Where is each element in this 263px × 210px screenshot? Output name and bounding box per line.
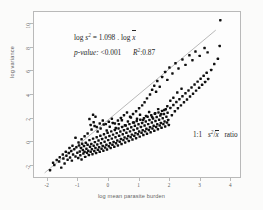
x-bar-symbol: x	[132, 31, 135, 44]
overbar	[132, 30, 135, 31]
slope-value: 1.098	[99, 33, 116, 42]
y-tick-label: 6	[25, 70, 31, 84]
equation-line: log s2 = 1.098 . log x	[74, 29, 155, 44]
x-tick-mark	[169, 178, 170, 181]
plot-area: log s2 = 1.098 . log x p-value: <0.001 R…	[33, 11, 241, 178]
equals-sign: =	[93, 33, 97, 42]
y-axis-title: log variance	[9, 46, 15, 78]
log-label-2: log	[121, 33, 130, 42]
y-tick-label: 8	[25, 47, 31, 61]
x-symbol: x	[132, 33, 135, 42]
ratio-suffix: ratio	[224, 131, 237, 139]
x-tick-label: 1	[131, 182, 147, 188]
x-tick-label: 0	[100, 182, 116, 188]
y-tick-label: 2	[25, 118, 31, 132]
x-tick-mark	[230, 178, 231, 181]
y-tick-label: -2	[25, 165, 31, 179]
ratio-annotation: 1:1 s2/x ratio	[193, 129, 238, 139]
equation-annotation: log s2 = 1.098 . log x p-value: <0.001 R…	[74, 29, 155, 60]
log-label: log	[74, 33, 83, 42]
y-tick-label: 10	[25, 23, 31, 37]
pvalue-value: <0.001	[100, 49, 121, 58]
x-tick-mark	[108, 178, 109, 181]
x-tick-label: 2	[161, 182, 177, 188]
x-tick-mark	[47, 178, 48, 181]
x-tick-label: 4	[222, 182, 238, 188]
ratio-denominator-group: x	[215, 131, 218, 139]
x-tick-mark	[139, 178, 140, 181]
figure-container: log s2 = 1.098 . log x p-value: <0.001 R…	[0, 0, 263, 210]
s-exponent: 2	[88, 32, 91, 38]
pvalue-label: p-value:	[74, 49, 99, 58]
y-tick-label: 4	[25, 94, 31, 108]
x-tick-mark	[77, 178, 78, 181]
x-tick-label: -2	[39, 182, 55, 188]
x-tick-label: -1	[69, 182, 85, 188]
ratio-label: 1:1	[193, 131, 202, 139]
x-axis-title: log mean parasite burden	[0, 193, 263, 199]
multiply-dot: .	[117, 33, 119, 42]
ratio-denominator: x	[215, 131, 218, 139]
stats-line: p-value: <0.001 R2:0.87	[74, 44, 155, 59]
ratio-overbar	[215, 130, 218, 131]
r2-value: 0.87	[142, 49, 155, 58]
x-tick-label: 3	[192, 182, 208, 188]
x-tick-mark	[200, 178, 201, 181]
y-tick-label: 0	[25, 141, 31, 155]
